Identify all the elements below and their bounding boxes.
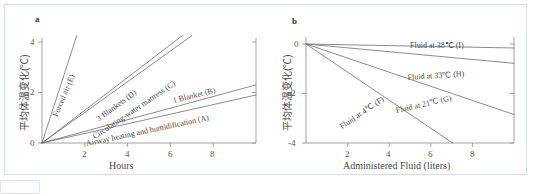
panel-b-xtick-8: 8 (470, 149, 475, 159)
panel-b-x-axis-title: Administered Fluid (liters) (343, 160, 450, 171)
panel-b-ytick-minus2: -2 (288, 88, 296, 98)
panel-a-xtick-8: 8 (210, 149, 215, 159)
panel-a-xtick-6: 6 (168, 149, 173, 159)
panel-a-ytick-4: 4 (30, 37, 35, 47)
curve-label-fluid-38c: Fluid at 38℃ (I) (410, 41, 464, 50)
panel-a-ytick-2: 2 (30, 87, 35, 97)
chart-panel-b: b (266, 4, 527, 175)
panel-b-ytick-minus4: -4 (288, 138, 296, 148)
panel-b-xtick-6: 6 (428, 149, 433, 159)
panel-a-y-axis-title: 平均体温变化(℃) (16, 54, 31, 131)
chart-panel-a: a (4, 4, 266, 175)
panel-b-xtick-4: 4 (386, 149, 391, 159)
panel-a-x-axis-title: Hours (109, 160, 133, 171)
panel-a-plot (4, 4, 266, 175)
figure-root: a (0, 0, 537, 194)
panel-b-ytick-0: 0 (294, 39, 299, 49)
panel-a-ytick-0: 0 (30, 138, 35, 148)
panel-a-xtick-2: 2 (82, 149, 87, 159)
scan-artifact (0, 180, 40, 194)
panel-b-plot (266, 4, 527, 175)
panel-a-xtick-4: 4 (125, 149, 130, 159)
panel-b-xtick-2: 2 (345, 149, 350, 159)
series-line-F (306, 44, 453, 143)
series-line-E (42, 36, 77, 143)
